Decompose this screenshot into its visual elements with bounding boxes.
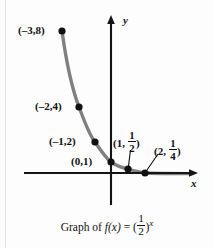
point-label-neg1-2: (–1,2) bbox=[49, 136, 76, 147]
point-label-2-quarter-open: (2, bbox=[154, 145, 169, 157]
fraction-denominator: 2 bbox=[128, 143, 135, 154]
data-point-neg1-2 bbox=[91, 138, 98, 145]
caption-prefix: Graph of bbox=[61, 221, 105, 233]
point-label-neg2-4: (–2,4) bbox=[35, 101, 62, 112]
data-point-neg3-8 bbox=[58, 27, 65, 34]
point-label-1-half-open: (1, bbox=[113, 137, 128, 149]
fraction-numerator: 1 bbox=[128, 130, 135, 141]
caption-function-name: f(x) bbox=[105, 221, 121, 233]
point-label-1-half-close: ) bbox=[136, 137, 140, 149]
fraction-one-quarter: 14 bbox=[169, 138, 176, 162]
caption-equals: = ( bbox=[121, 221, 137, 233]
y-axis-label: y bbox=[123, 15, 128, 26]
point-label-2-quarter: (2, 14) bbox=[154, 138, 181, 162]
point-label-2-quarter-close: ) bbox=[177, 145, 181, 157]
caption-fraction-one-half: 12 bbox=[137, 213, 145, 238]
caption-exponent: x bbox=[149, 218, 153, 228]
y-axis-arrowhead bbox=[107, 15, 115, 24]
figure-caption: Graph of f(x) = (12)x bbox=[0, 213, 214, 238]
data-point-1-half bbox=[124, 165, 131, 172]
point-label-0-1: (0,1) bbox=[71, 156, 92, 167]
x-axis-arrowhead bbox=[189, 169, 198, 177]
fraction-denominator: 4 bbox=[169, 151, 176, 162]
fraction-numerator: 1 bbox=[137, 213, 145, 224]
point-label-neg3-8: (–3,8) bbox=[18, 25, 45, 36]
fraction-numerator: 1 bbox=[169, 138, 176, 149]
exponential-decay-figure: y x (–3,8) (–2,4) (–1,2) (0,1) (1, 12) (… bbox=[0, 0, 214, 248]
graph-canvas bbox=[0, 0, 214, 248]
fraction-one-half: 12 bbox=[128, 130, 135, 154]
data-point-2-quarter bbox=[141, 169, 148, 176]
data-point-0-1 bbox=[107, 158, 114, 165]
data-point-neg2-4 bbox=[75, 103, 82, 110]
fraction-denominator: 2 bbox=[137, 226, 145, 237]
point-label-1-half: (1, 12) bbox=[113, 130, 140, 154]
x-axis-label: x bbox=[191, 178, 197, 189]
